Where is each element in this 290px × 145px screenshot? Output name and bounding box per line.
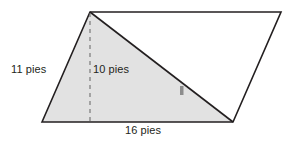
label-altitude: 10 pies	[93, 63, 129, 76]
label-left-side: 11 pies	[11, 63, 46, 76]
right-angle-mark-icon	[180, 86, 184, 95]
label-base: 16 pies	[125, 124, 161, 137]
geometry-figure: 11 pies 10 pies 16 pies	[0, 0, 290, 145]
